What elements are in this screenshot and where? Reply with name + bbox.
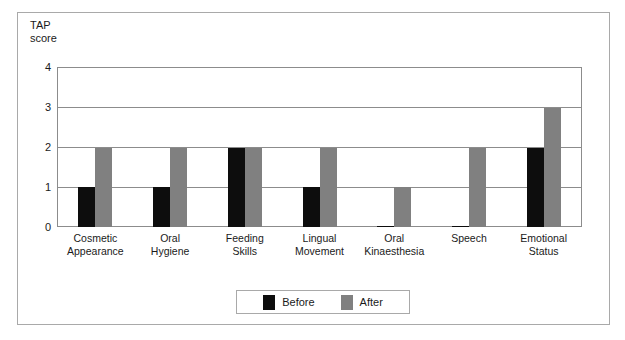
bar-after xyxy=(469,148,486,228)
legend-label-before: Before xyxy=(282,297,314,308)
x-axis-label: Lingual Movement xyxy=(282,232,357,257)
y-tick-label-0: 0 xyxy=(25,222,51,233)
bar-group xyxy=(133,68,208,227)
bar-group xyxy=(58,68,133,227)
legend-swatch-after xyxy=(341,295,353,310)
x-axis-label: Oral Hygiene xyxy=(133,232,208,257)
legend-item-before: Before xyxy=(263,295,314,310)
legend-swatch-before xyxy=(263,295,275,310)
bar-after xyxy=(320,148,337,228)
bar-after xyxy=(394,187,411,227)
bar-after xyxy=(245,148,262,228)
y-tick-label-3: 3 xyxy=(25,102,51,113)
bar-before xyxy=(153,187,170,227)
bar-group xyxy=(432,68,507,227)
bar-group xyxy=(207,68,282,227)
bar-group xyxy=(506,68,581,227)
y-axis-tick-labels: 4 3 2 1 0 xyxy=(23,67,51,227)
x-axis-label: Feeding Skills xyxy=(207,232,282,257)
bar-before xyxy=(527,148,544,228)
y-tick-label-1: 1 xyxy=(25,182,51,193)
x-axis-label: Speech xyxy=(432,232,507,257)
bar-before xyxy=(452,226,469,228)
bar-groups xyxy=(58,68,581,227)
y-axis-title: TAP score xyxy=(30,19,57,45)
x-axis-label: Emotional Status xyxy=(506,232,581,257)
chart-figure: TAP score 4 3 2 1 0 Cosmetic AppearanceO… xyxy=(0,0,625,340)
bar-before xyxy=(228,148,245,228)
bar-group xyxy=(282,68,357,227)
bar-before xyxy=(303,187,320,227)
bar-before xyxy=(78,187,95,227)
bar-after xyxy=(95,148,112,228)
bar-before xyxy=(377,226,394,228)
bar-after xyxy=(544,108,561,227)
x-axis-label: Cosmetic Appearance xyxy=(58,232,133,257)
y-tick-label-4: 4 xyxy=(25,62,51,73)
bar-after xyxy=(170,148,187,228)
x-axis-label: Oral Kinaesthesia xyxy=(357,232,432,257)
legend-item-after: After xyxy=(341,295,383,310)
chart-legend: Before After xyxy=(236,290,410,314)
y-tick-label-2: 2 xyxy=(25,142,51,153)
bar-group xyxy=(357,68,432,227)
x-axis-category-labels: Cosmetic AppearanceOral HygieneFeeding S… xyxy=(58,232,581,257)
legend-label-after: After xyxy=(360,297,383,308)
